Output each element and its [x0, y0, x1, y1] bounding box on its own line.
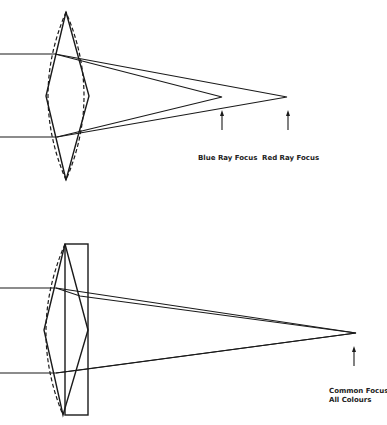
lens-diagram: Blue Ray Focus Red Ray Focus Common Focu…	[0, 0, 387, 425]
common-focus-label: Common Focus	[329, 387, 387, 395]
blue-focus-label: Blue Ray Focus	[198, 154, 257, 162]
doublet-curved-face	[46, 244, 65, 415]
crown-element	[44, 244, 88, 415]
flint-element	[65, 244, 88, 415]
blue-rays	[55, 54, 222, 137]
converging-rays-b	[56, 288, 356, 373]
all-colours-label: All Colours	[329, 396, 371, 404]
red-rays	[55, 54, 287, 137]
red-arrowhead-icon	[286, 110, 290, 116]
converging-rays-a	[56, 288, 356, 373]
single-lens-group: Blue Ray Focus Red Ray Focus	[0, 12, 319, 180]
ideal-lens-outline	[48, 12, 84, 180]
doublet-lens-group: Common Focus All Colours	[0, 244, 387, 415]
red-focus-label: Red Ray Focus	[262, 154, 319, 162]
common-arrowhead-icon	[352, 346, 356, 352]
blue-arrowhead-icon	[220, 110, 224, 116]
single-lens	[46, 12, 89, 180]
